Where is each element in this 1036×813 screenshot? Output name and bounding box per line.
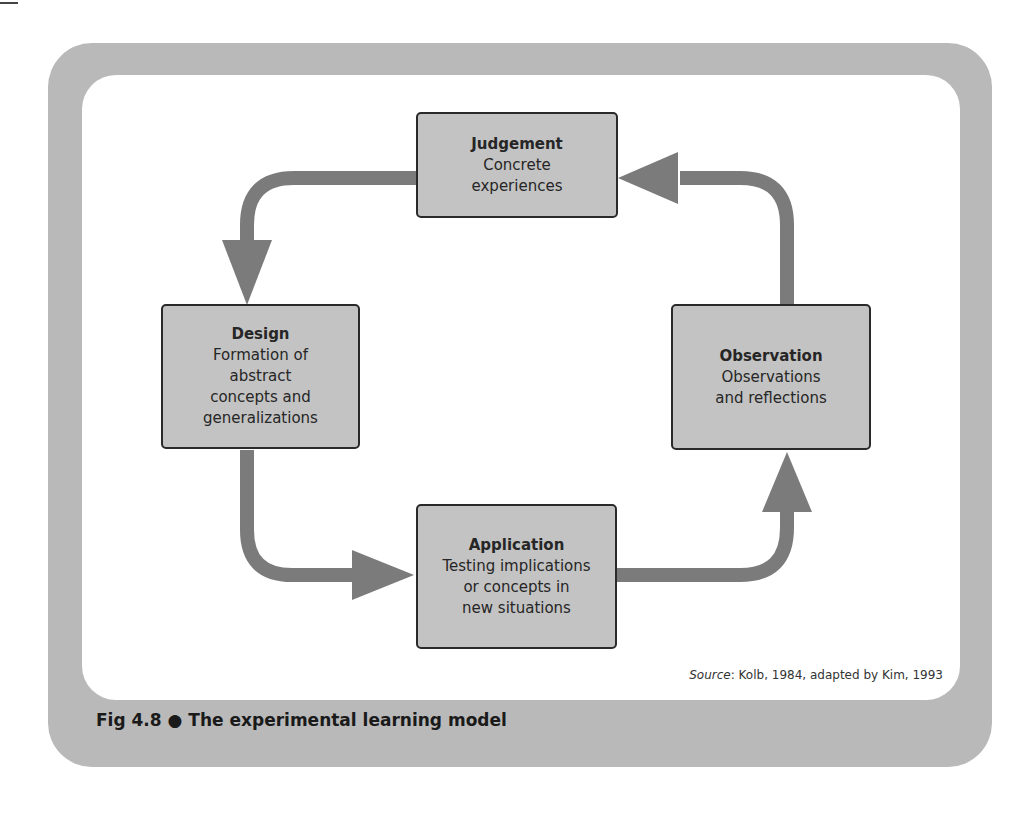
arrowhead-up-icon	[762, 452, 812, 512]
arrowhead-left-icon	[618, 152, 678, 204]
node-title: Design	[231, 324, 289, 345]
node-judgement: Judgement Concrete experiences	[416, 112, 618, 218]
node-description: Formation of abstract concepts and gener…	[203, 345, 318, 429]
arrow-application-to-observation	[617, 510, 787, 575]
figure-caption: Fig 4.8 ● The experimental learning mode…	[96, 710, 507, 730]
node-description: Testing implications or concepts in new …	[442, 556, 590, 619]
node-title: Judgement	[471, 134, 563, 155]
arrowhead-down-icon	[222, 240, 272, 305]
arrowhead-right-icon	[352, 550, 414, 600]
node-title: Application	[469, 535, 565, 556]
arrow-design-to-application	[247, 450, 352, 575]
source-note: Source: Kolb, 1984, adapted by Kim, 1993	[689, 668, 943, 682]
source-label: Source	[689, 668, 730, 682]
caption-number: Fig 4.8	[96, 710, 162, 730]
node-design: Design Formation of abstract concepts an…	[161, 304, 360, 449]
caption-bullet-icon: ●	[168, 710, 183, 730]
node-observation: Observation Observations and reflections	[671, 304, 871, 450]
source-text: : Kolb, 1984, adapted by Kim, 1993	[731, 668, 943, 682]
arrow-judgement-to-design	[247, 178, 416, 240]
node-description: Observations and reflections	[715, 367, 827, 409]
caption-title: The experimental learning model	[188, 710, 507, 730]
node-title: Observation	[719, 346, 822, 367]
node-description: Concrete experiences	[472, 155, 563, 197]
node-application: Application Testing implications or conc…	[416, 504, 617, 649]
arrow-observation-to-judgement	[680, 178, 787, 305]
